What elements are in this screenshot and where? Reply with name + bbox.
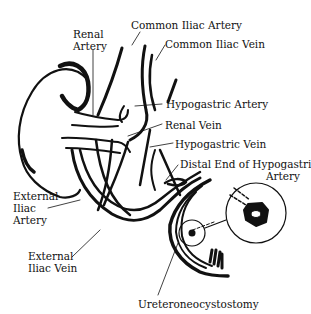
label-line: Artery	[180, 170, 300, 182]
label-common-iliac-artery: Common Iliac Artery	[131, 19, 242, 31]
kidney	[19, 69, 88, 197]
label-common-iliac-vein: Common Iliac Vein	[165, 38, 265, 50]
label-distal-end-hypogastric-artery: Distal End of Hypogastric Artery	[180, 158, 300, 182]
label-line: Iliac Vein	[28, 262, 77, 274]
label-external-iliac-artery: External Iliac Artery	[13, 190, 58, 226]
label-line: Renal	[73, 28, 107, 40]
common-iliac-vein-vessel	[130, 46, 147, 140]
label-line: Artery	[73, 40, 107, 52]
label-hypogastric-vein: Hypogastric Vein	[175, 138, 266, 150]
label-line: Artery	[13, 214, 58, 226]
label-line: External	[13, 190, 58, 202]
label-hypogastric-artery: Hypogastric Artery	[166, 98, 268, 110]
label-line: Iliac	[13, 202, 58, 214]
label-renal-artery: Renal Artery	[73, 28, 107, 52]
label-line: Distal End of Hypogastric	[180, 158, 300, 170]
label-ureteroneocystostomy: Ureteroneocystostomy	[138, 298, 259, 310]
label-renal-vein: Renal Vein	[165, 119, 222, 131]
common-iliac-artery-vessel	[98, 48, 122, 115]
label-external-iliac-vein: External Iliac Vein	[28, 250, 77, 274]
label-line: External	[28, 250, 77, 262]
kidney-transplant-diagram: Renal Artery Common Iliac Artery Common …	[0, 0, 311, 314]
